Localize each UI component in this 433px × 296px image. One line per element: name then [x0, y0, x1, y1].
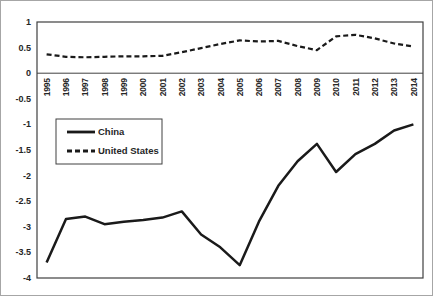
x-axis-labels: 1995199619971998199920002001200220032004…	[42, 78, 419, 97]
x-tick-label: 2010	[331, 78, 341, 97]
legend-label: China	[98, 126, 125, 137]
legend: ChinaUnited States	[56, 119, 162, 164]
y-tick-label: 0	[26, 68, 31, 78]
y-tick-label: -4	[23, 273, 31, 283]
x-tick-label: 2009	[312, 78, 322, 97]
x-tick-label: 2011	[351, 78, 361, 96]
x-tick-label: 2000	[138, 78, 148, 97]
y-tick-label: -2	[23, 171, 31, 181]
x-tick-label: 2001	[158, 78, 168, 97]
x-tick-label: 2008	[293, 78, 303, 97]
legend-label: United States	[98, 145, 159, 156]
y-tick-label: 0.5	[18, 43, 31, 53]
series-united-states-line	[47, 35, 414, 58]
x-tick-label: 1997	[80, 78, 90, 97]
y-tick-label: 1	[26, 17, 31, 27]
x-tick-label: 2002	[177, 78, 187, 97]
x-tick-label: 2004	[216, 78, 226, 97]
x-tick-label: 1999	[119, 78, 129, 97]
y-tick-label: -3	[23, 222, 31, 232]
y-tick-label: -1	[23, 119, 31, 129]
x-tick-label: 1995	[42, 78, 52, 97]
x-tick-label: 2006	[254, 78, 264, 97]
y-axis-labels: 10.50-0.5-1-1.5-2-2.5-3-3.5-4	[15, 17, 31, 283]
x-tick-label: 2012	[370, 78, 380, 97]
y-tick-label: -0.5	[15, 94, 31, 104]
x-tick-label: 2014	[409, 78, 419, 97]
x-tick-label: 2013	[389, 78, 399, 97]
line-chart: 10.50-0.5-1-1.5-2-2.5-3-3.5-419951996199…	[1, 1, 433, 296]
x-tick-label: 2003	[196, 78, 206, 97]
y-tick-label: -3.5	[15, 247, 31, 257]
y-tick-label: -2.5	[15, 196, 31, 206]
x-tick-label: 2005	[235, 78, 245, 97]
chart-frame: 10.50-0.5-1-1.5-2-2.5-3-3.5-419951996199…	[0, 0, 433, 296]
x-tick-label: 1998	[100, 78, 110, 97]
x-tick-label: 1996	[61, 78, 71, 97]
x-tick-label: 2007	[273, 78, 283, 97]
y-tick-label: -1.5	[15, 145, 31, 155]
